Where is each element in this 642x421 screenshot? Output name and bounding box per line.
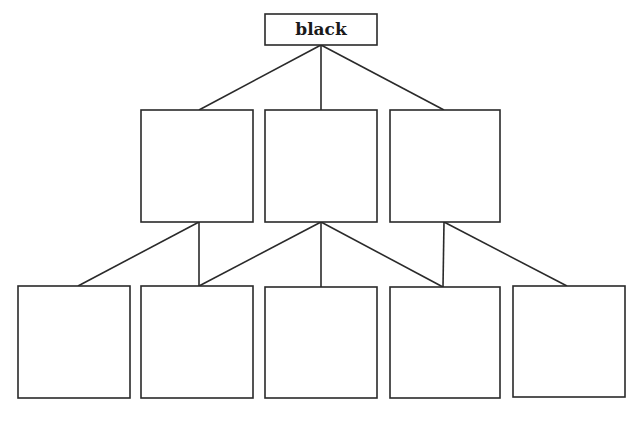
level1-box-3 <box>390 110 500 222</box>
edge-m3-b5 <box>444 222 567 286</box>
level1-box-2 <box>265 110 377 222</box>
edge-m2-b4 <box>321 222 443 287</box>
tree-diagram: black <box>0 0 642 421</box>
level2-box-4 <box>390 287 500 398</box>
level2-box-5 <box>513 286 625 397</box>
level2-box-1 <box>18 286 130 398</box>
level2-box-2 <box>141 286 253 398</box>
edge-m1-b1 <box>78 222 199 286</box>
level1-box-1 <box>141 110 253 222</box>
edge-m3-b4 <box>443 222 444 287</box>
edge-root-m3 <box>321 45 444 110</box>
root-node: black <box>265 14 377 45</box>
edge-m2-b2 <box>199 222 321 286</box>
root-label: black <box>295 19 348 39</box>
level2-box-3 <box>265 287 377 398</box>
edge-root-m1 <box>199 45 321 110</box>
